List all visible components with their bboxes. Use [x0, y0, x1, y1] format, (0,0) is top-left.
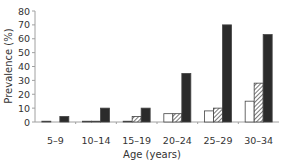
bars	[42, 25, 272, 122]
x-tick-label: 10–14	[82, 135, 111, 146]
y-tick-label: 70	[18, 19, 30, 30]
bar-white	[42, 121, 51, 122]
bar-hatched	[132, 116, 141, 122]
y-tick-label: 50	[18, 47, 30, 58]
x-tick-label: 30–34	[244, 135, 273, 146]
bar-black	[101, 108, 110, 122]
bar-white	[123, 121, 132, 122]
bar-black	[141, 108, 150, 122]
bar-hatched	[254, 83, 263, 122]
y-tick-label: 60	[18, 33, 30, 44]
bar-chart: 01020304050607080 5–910–1415–1920–2425–2…	[0, 0, 283, 164]
bar-white	[205, 111, 214, 122]
bar-white	[245, 101, 254, 122]
bar-black	[60, 116, 69, 122]
bar-black	[223, 25, 232, 122]
y-tick-label: 30	[18, 75, 30, 86]
x-tick-label: 20–24	[163, 135, 192, 146]
x-tick-label: 25–29	[204, 135, 233, 146]
x-axis: 5–910–1415–1920–2425–2930–34	[35, 122, 279, 146]
bar-black	[263, 35, 272, 122]
y-tick-label: 0	[24, 117, 30, 128]
x-tick-label: 15–19	[122, 135, 151, 146]
bar-white	[164, 114, 173, 122]
y-tick-label: 10	[18, 103, 30, 114]
bar-hatched	[214, 108, 223, 122]
y-tick-label: 40	[18, 61, 30, 72]
y-tick-label: 20	[18, 89, 30, 100]
x-tick-label: 5–9	[47, 135, 64, 146]
bar-hatched	[92, 121, 101, 122]
bar-white	[83, 121, 92, 122]
y-axis: 01020304050607080	[18, 6, 35, 128]
y-axis-title: Prevalence (%)	[3, 28, 14, 103]
x-axis-title: Age (years)	[123, 149, 181, 160]
bar-black	[182, 73, 191, 122]
y-tick-label: 80	[18, 6, 30, 17]
bar-hatched	[173, 114, 182, 122]
